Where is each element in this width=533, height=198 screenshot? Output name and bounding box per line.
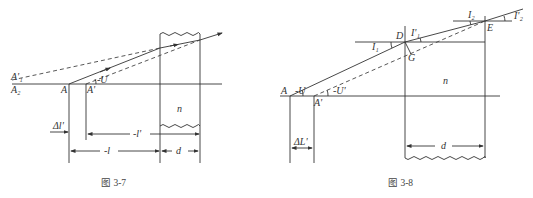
- figure-3-8: A A' -U -U' D G E I₁ I'₁ I₂ I'₂ n ΔL' d …: [280, 9, 523, 188]
- label-A2: A₂: [10, 84, 21, 95]
- angle-I1-prime-arc: [420, 38, 421, 42]
- ray-from-A: [69, 40, 200, 84]
- caption-fig-3-7: 图 3-7: [101, 178, 126, 188]
- label-A: A: [280, 85, 288, 96]
- label-neg-l: -l: [104, 145, 110, 156]
- angle-I1-arc: [391, 42, 392, 48]
- label-I1: I₁: [371, 41, 379, 52]
- plate-bottom-wavy: [405, 157, 485, 160]
- label-n: n: [177, 103, 182, 114]
- label-I2-prime: I'₂: [513, 10, 523, 21]
- label-A1-prime: A'₁: [10, 71, 23, 82]
- label-G: G: [408, 52, 415, 63]
- label-I2: I₂: [467, 9, 475, 20]
- label-delta-L-prime: ΔL': [293, 136, 308, 147]
- label-delta-l-prime: Δl': [52, 120, 65, 131]
- label-E: E: [486, 22, 493, 33]
- label-angle-U: -U: [97, 74, 108, 85]
- label-d: d: [441, 140, 447, 151]
- label-D: D: [395, 30, 404, 41]
- virtual-ray-A1: [12, 48, 160, 80]
- caption-fig-3-8: 图 3-8: [388, 178, 413, 188]
- glass-plate: [160, 33, 200, 164]
- label-A: A: [60, 84, 68, 95]
- label-d: d: [176, 145, 182, 156]
- label-angle-neg-U: -U: [295, 85, 306, 96]
- label-A-prime: A': [313, 97, 323, 108]
- angle-I2-arc: [470, 21, 471, 25]
- exit-ray: [200, 33, 222, 40]
- label-I1-prime: I'₁: [410, 27, 420, 38]
- figure-3-7: A'₁ A₂ A A' -U n Δl' -l' -l d 图 3-7: [10, 33, 222, 189]
- label-angle-neg-U-prime: -U': [333, 85, 347, 96]
- angle-U-prime-arc: [327, 90, 328, 96]
- label-A-prime: A': [86, 84, 96, 95]
- label-neg-l-prime: -l': [133, 128, 142, 139]
- angle-I2-prime-arc: [504, 16, 505, 21]
- label-n: n: [443, 75, 448, 86]
- diagram-canvas: A'₁ A₂ A A' -U n Δl' -l' -l d 图 3-7: [0, 0, 533, 198]
